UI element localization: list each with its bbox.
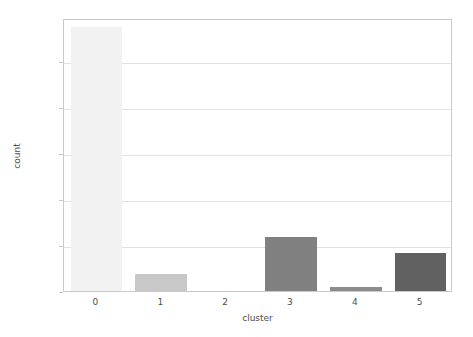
x-tick-label: 2 xyxy=(205,298,245,307)
x-tick-label: 4 xyxy=(335,298,375,307)
x-tick-label: 3 xyxy=(270,298,310,307)
plot-area xyxy=(63,19,452,292)
x-axis-title-label: cluster xyxy=(242,313,273,323)
bar-cluster-0[interactable] xyxy=(71,27,123,291)
bar-cluster-5[interactable] xyxy=(395,253,447,291)
x-tick-label: 5 xyxy=(400,298,440,307)
bar-cluster-4[interactable] xyxy=(330,287,382,291)
x-axis-title: cluster xyxy=(63,313,452,323)
bar-cluster-1[interactable] xyxy=(135,274,187,291)
y-axis-title-label: count xyxy=(12,143,22,168)
bar-cluster-3[interactable] xyxy=(265,237,317,291)
chart-figure: count 020000400006000080000100000 012345… xyxy=(0,0,473,337)
y-tick-mark xyxy=(59,292,63,293)
x-tick-label: 1 xyxy=(140,298,180,307)
x-tick-label: 0 xyxy=(75,298,115,307)
y-axis-title: count xyxy=(12,116,22,196)
